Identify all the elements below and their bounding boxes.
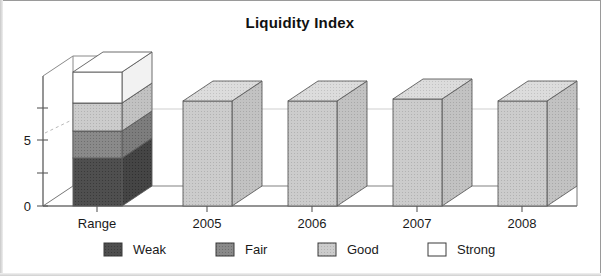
bar-2005 xyxy=(183,81,262,206)
x-axis-label-2006: 2006 xyxy=(298,216,327,231)
x-axis-label-range: Range xyxy=(78,216,116,231)
legend-swatch-fair xyxy=(216,243,234,256)
bar-2006-side xyxy=(337,81,367,206)
chart-title: Liquidity Index xyxy=(246,14,355,31)
bar-range-good-front xyxy=(73,103,122,131)
back-wall-left xyxy=(43,56,73,206)
legend-swatch-good xyxy=(318,243,336,256)
bar-2008-front xyxy=(498,101,547,206)
y-axis-label-0: 0 xyxy=(24,199,31,214)
bar-range-fair-front xyxy=(73,131,122,158)
bar-2008-side xyxy=(547,81,577,206)
bar-2008 xyxy=(498,81,577,206)
bar-2005-side xyxy=(232,81,262,206)
liquidity-index-chart: Liquidity Index 0 5 xyxy=(0,0,601,276)
x-axis-label-2007: 2007 xyxy=(403,216,432,231)
bar-2005-front xyxy=(183,101,232,206)
dashed-leader-line xyxy=(45,118,76,133)
x-axis-label-2008: 2008 xyxy=(508,216,537,231)
bar-range-strong-front xyxy=(73,72,122,103)
bar-2006-front xyxy=(288,101,337,206)
bar-2007-side xyxy=(442,79,472,206)
legend-swatch-strong xyxy=(428,243,446,256)
bar-2006 xyxy=(288,81,367,206)
chart-page: Liquidity Index 0 5 xyxy=(0,0,601,276)
legend-swatch-weak xyxy=(104,243,122,256)
legend-label-fair: Fair xyxy=(245,242,268,257)
bar-2007 xyxy=(393,79,472,206)
bar-range-stacked xyxy=(73,52,152,206)
legend-label-good: Good xyxy=(347,242,379,257)
legend-label-strong: Strong xyxy=(457,242,495,257)
x-axis-label-2005: 2005 xyxy=(193,216,222,231)
y-axis-label-5: 5 xyxy=(24,133,31,148)
legend-label-weak: Weak xyxy=(133,242,166,257)
bar-2007-front xyxy=(393,99,442,206)
chart-legend: Weak Fair Good Strong xyxy=(104,242,495,257)
bar-range-weak-front xyxy=(73,158,122,206)
